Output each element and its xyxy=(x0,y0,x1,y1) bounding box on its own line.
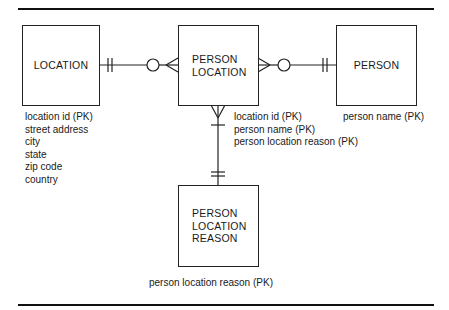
entity-name-line: LOCATION xyxy=(192,220,247,233)
attribute: location id (PK) xyxy=(234,111,358,124)
entity-name-line: PERSON xyxy=(192,207,247,220)
crows-foot-icon xyxy=(211,105,218,118)
attribute-list-person-location-reason: person location reason (PK) xyxy=(149,277,273,290)
attribute: person location reason (PK) xyxy=(234,136,358,149)
entity-name-line: LOCATION xyxy=(192,66,247,79)
attribute: street address xyxy=(25,124,93,137)
entity-name-line: REASON xyxy=(192,232,247,245)
entity-name-line: PERSON xyxy=(192,53,247,66)
attribute: state xyxy=(25,149,93,162)
attribute: city xyxy=(25,136,93,149)
attribute: person location reason (PK) xyxy=(149,277,273,290)
crows-foot-icon xyxy=(258,58,270,65)
attribute-list-location: location id (PK) street address city sta… xyxy=(25,111,93,186)
entity-person-location-reason[interactable]: PERSON LOCATION REASON xyxy=(178,185,259,267)
attribute: country xyxy=(25,174,93,187)
entity-location[interactable]: LOCATION xyxy=(22,25,100,106)
zero-circle-icon xyxy=(278,59,290,71)
entity-name: PERSON xyxy=(354,59,400,72)
entity-name: LOCATION xyxy=(34,59,89,72)
zero-circle-icon xyxy=(147,59,159,71)
attribute-list-person-location: location id (PK) person name (PK) person… xyxy=(234,111,358,149)
attribute: zip code xyxy=(25,161,93,174)
entity-person[interactable]: PERSON xyxy=(336,25,417,106)
attribute: person name (PK) xyxy=(234,124,358,137)
attribute-list-person: person name (PK) xyxy=(343,111,424,124)
attribute: person name (PK) xyxy=(343,111,424,124)
entity-person-location[interactable]: PERSON LOCATION xyxy=(178,25,259,106)
attribute: location id (PK) xyxy=(25,111,93,124)
crows-foot-icon xyxy=(166,58,178,65)
